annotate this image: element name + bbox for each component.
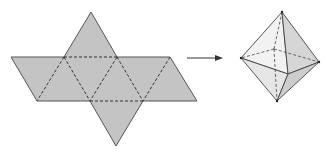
- octahedron-net: [11, 12, 197, 146]
- octahedron-diagram: [0, 0, 326, 156]
- octahedron-solid: [240, 11, 320, 102]
- arrow-icon: [187, 55, 223, 61]
